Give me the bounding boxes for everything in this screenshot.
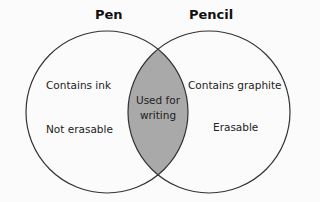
pencil-title: Pencil (189, 7, 233, 22)
pen-title: Pen (95, 7, 123, 22)
pencil-item-1: Contains graphite (188, 79, 282, 91)
intersection-line-2: writing (132, 109, 184, 121)
pen-item-2: Not erasable (46, 123, 113, 135)
pencil-item-2: Erasable (213, 121, 258, 133)
pen-item-1: Contains ink (46, 79, 111, 91)
intersection-line-1: Used for (132, 94, 184, 106)
